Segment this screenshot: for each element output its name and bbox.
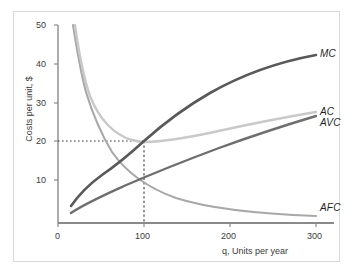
curve-label-afc: AFC [320, 202, 341, 213]
x-tick-label-200: 200 [221, 231, 236, 241]
y-tick-label-20: 20 [36, 136, 46, 146]
curve-ac [75, 25, 316, 142]
curve-mc [71, 55, 316, 206]
cost-curves-plot [14, 12, 339, 261]
y-tick-label-30: 30 [36, 98, 46, 108]
curve-label-avc: AVC [320, 117, 341, 128]
y-tick-label-10: 10 [36, 175, 46, 185]
y-tick-label-40: 40 [36, 59, 46, 69]
x-tick-label-0: 0 [55, 231, 60, 241]
x-axis-title: q, Units per year [222, 246, 288, 256]
figure-panel: 50 40 30 20 10 0 100 200 300 Costs per u… [13, 11, 340, 262]
y-axis-title: Costs per unit, $ [24, 66, 34, 152]
curve-label-mc: MC [320, 48, 336, 59]
curve-afc [73, 25, 316, 216]
curve-avc [71, 116, 316, 213]
y-tick-label-50: 50 [36, 20, 46, 30]
x-tick-label-100: 100 [135, 231, 150, 241]
x-tick-label-300: 300 [307, 231, 322, 241]
curve-label-ac: AC [320, 106, 334, 117]
